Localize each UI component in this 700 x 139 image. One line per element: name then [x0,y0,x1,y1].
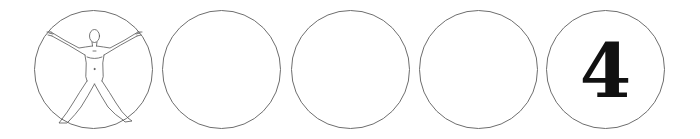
circle-3-empty [291,10,410,129]
circle-2-empty [162,10,281,129]
number-label: 4 [580,34,632,108]
circle-5-number: 4 [546,10,665,129]
circle-4-empty [419,10,538,129]
circle-1-human-figure [34,10,153,129]
human-figure-icon [35,11,154,130]
